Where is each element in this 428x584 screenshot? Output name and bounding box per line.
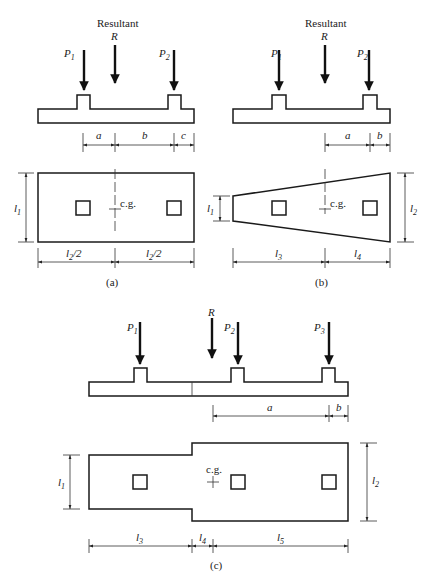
svg-text:c.g.: c.g. bbox=[330, 197, 346, 209]
svg-text:b: b bbox=[336, 401, 342, 413]
svg-text:l5: l5 bbox=[277, 531, 284, 546]
svg-text:a: a bbox=[345, 129, 351, 141]
caption-c: (c) bbox=[210, 559, 223, 572]
svg-text:l2/2: l2/2 bbox=[146, 247, 162, 262]
panel-a-elevation: Resultant R P1 P2 a b c bbox=[38, 17, 194, 152]
svg-text:a: a bbox=[96, 129, 102, 141]
svg-text:l3: l3 bbox=[136, 531, 143, 546]
footing-elevation bbox=[89, 368, 348, 396]
panel-a: Resultant R P1 P2 a b c bbox=[14, 17, 194, 289]
svg-text:l3: l3 bbox=[275, 247, 282, 262]
svg-text:Resultant: Resultant bbox=[305, 17, 347, 29]
svg-text:l2: l2 bbox=[372, 474, 379, 489]
svg-text:l2: l2 bbox=[410, 202, 417, 217]
panel-b: Resultant R P1 P2 a b c.g. bbox=[207, 17, 417, 289]
column-3 bbox=[322, 475, 336, 489]
column-1 bbox=[133, 475, 147, 489]
footing-plan-trapezoid bbox=[233, 173, 390, 242]
panel-b-elevation: Resultant R P1 P2 a b bbox=[233, 17, 390, 152]
svg-text:b: b bbox=[142, 129, 148, 141]
svg-text:a: a bbox=[267, 401, 273, 413]
svg-text:l4: l4 bbox=[354, 247, 361, 262]
svg-text:l1: l1 bbox=[207, 202, 214, 217]
resultant-label: Resultant bbox=[97, 17, 139, 29]
column-2 bbox=[231, 475, 245, 489]
load-p1-label: P1 bbox=[63, 47, 75, 62]
footing-elevation bbox=[38, 95, 194, 123]
svg-text:b: b bbox=[377, 129, 383, 141]
panel-a-plan: c.g. l1 l2/2 l2/2 (a) bbox=[14, 169, 194, 289]
svg-text:R: R bbox=[320, 30, 328, 42]
panel-b-plan: c.g. l1 l2 l3 l4 (b) bbox=[207, 169, 417, 289]
caption-b: (b) bbox=[315, 276, 328, 289]
svg-text:P1: P1 bbox=[126, 321, 138, 336]
svg-text:P2: P2 bbox=[356, 47, 368, 62]
svg-text:l1: l1 bbox=[58, 476, 65, 491]
column-1 bbox=[272, 201, 286, 215]
svg-text:R: R bbox=[207, 306, 215, 318]
column-1 bbox=[76, 201, 90, 215]
caption-a: (a) bbox=[106, 276, 119, 289]
svg-text:l2/2: l2/2 bbox=[66, 247, 82, 262]
panel-c-elevation: R P1 P2 P3 a b bbox=[89, 306, 348, 422]
svg-text:c.g.: c.g. bbox=[120, 197, 136, 209]
column-2 bbox=[363, 201, 377, 215]
footing-plan-rect bbox=[38, 173, 194, 242]
panel-c: R P1 P2 P3 a b c.g. bbox=[58, 306, 379, 572]
panel-c-plan: c.g. l1 l2 l3 l4 l5 (c) bbox=[58, 443, 379, 572]
svg-text:l4: l4 bbox=[199, 531, 206, 546]
svg-text:l1: l1 bbox=[14, 202, 21, 217]
column-2 bbox=[167, 201, 181, 215]
footing-elevation bbox=[233, 95, 390, 123]
footing-diagram: Resultant R P1 P2 a b c bbox=[0, 0, 428, 584]
svg-text:c: c bbox=[181, 129, 186, 141]
svg-text:P3: P3 bbox=[313, 321, 325, 336]
load-p2-label: P2 bbox=[158, 47, 170, 62]
resultant-symbol: R bbox=[110, 30, 118, 42]
svg-text:c.g.: c.g. bbox=[206, 463, 222, 475]
svg-text:P2: P2 bbox=[223, 321, 235, 336]
